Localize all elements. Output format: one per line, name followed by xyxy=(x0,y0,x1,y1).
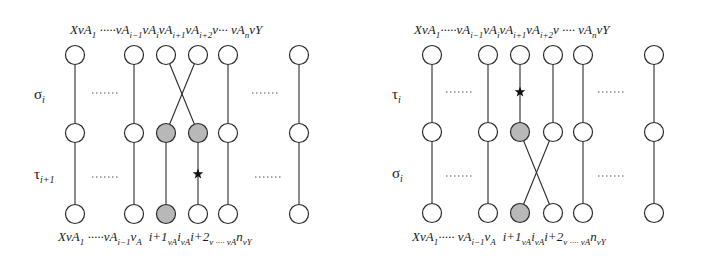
bottom-sequence-label: XvA1 ·····vAi−1vA⃖i+1vAivAi+2v ···· vAnv… xyxy=(57,229,253,247)
subscript: vA xyxy=(522,237,532,247)
label-part: i+2 xyxy=(190,229,209,244)
node xyxy=(66,205,85,224)
subscript: i+1 xyxy=(513,30,526,40)
subscript: v ···· vA xyxy=(209,237,236,247)
subscript: i+2 xyxy=(540,30,554,40)
shaded-node xyxy=(157,205,176,224)
subscript: i−1 xyxy=(471,237,484,247)
shaded-node xyxy=(511,204,530,223)
top-sequence-label: XvA1·····vAi−1vAivAi+1vAi+2v ···· vAnvY xyxy=(413,22,611,40)
node xyxy=(479,46,498,65)
label-part: i+1 xyxy=(149,229,168,244)
subscript: vY xyxy=(243,237,253,247)
subscript: i−1 xyxy=(470,30,483,40)
node xyxy=(189,46,208,65)
shaded-node xyxy=(189,124,208,143)
label-part: ·····vA xyxy=(84,229,117,244)
node xyxy=(423,46,442,65)
label-part: vY xyxy=(249,22,264,37)
node xyxy=(423,204,442,223)
row-label-symbol: σ xyxy=(34,86,42,102)
label-part: v ···· vA xyxy=(553,22,592,37)
node xyxy=(645,123,664,142)
label-part: vA xyxy=(526,22,540,37)
nodes xyxy=(66,46,309,224)
subscript: vY xyxy=(597,237,607,247)
label-part: XvA xyxy=(69,22,92,37)
subscript: i+1 xyxy=(172,30,185,40)
subscript: i+2 xyxy=(199,30,213,40)
left-braid-diagram: σiτi+1XvA1 ·····vAi−1vAivAi+1vAi+2v··· v… xyxy=(34,22,309,247)
node xyxy=(219,205,238,224)
label-part: vA xyxy=(499,22,513,37)
label-part: ····· vA xyxy=(438,229,471,244)
label-part: i+1 xyxy=(503,229,522,244)
node xyxy=(479,204,498,223)
node xyxy=(125,124,144,143)
row-label: τi xyxy=(392,86,401,105)
subscript: A⃖ xyxy=(489,237,503,247)
subscript: vA xyxy=(168,237,178,247)
shaded-node xyxy=(511,123,530,142)
node xyxy=(544,123,563,142)
node xyxy=(290,205,309,224)
node xyxy=(574,204,593,223)
node xyxy=(574,123,593,142)
braid-diagram-canvas: σiτi+1XvA1 ·····vAi−1vAivAi+1vAi+2v··· v… xyxy=(0,0,716,271)
right-braid-diagram: τiσiXvA1·····vAi−1vAivAi+1vAi+2v ···· vA… xyxy=(392,22,664,247)
node xyxy=(544,46,563,65)
subscript: v ···· vA xyxy=(563,237,590,247)
node xyxy=(125,46,144,65)
label-part: vA xyxy=(159,22,173,37)
node xyxy=(423,123,442,142)
label-part: vA xyxy=(142,22,156,37)
node xyxy=(219,124,238,143)
node xyxy=(290,124,309,143)
label-part: vA xyxy=(185,22,199,37)
node xyxy=(645,46,664,65)
shaded-node xyxy=(157,124,176,143)
label-part: v··· vA xyxy=(212,22,245,37)
node xyxy=(645,204,664,223)
node xyxy=(544,204,563,223)
subscript: A⃖ xyxy=(135,237,149,247)
node xyxy=(574,46,593,65)
top-sequence-label: XvA1 ·····vAi−1vAivAi+1vAi+2v··· vAnvY xyxy=(69,22,264,40)
label-part: XvA xyxy=(57,229,80,244)
subscript: vA xyxy=(535,237,545,247)
row-label: τi+1 xyxy=(34,166,55,185)
node xyxy=(511,46,530,65)
row-label-subscript: i+1 xyxy=(40,174,55,185)
row-label-subscript: i xyxy=(42,94,45,105)
node xyxy=(66,46,85,65)
row-label-symbol: σ xyxy=(392,165,400,181)
subscript: i−1 xyxy=(129,30,142,40)
node xyxy=(125,205,144,224)
label-part: vY xyxy=(597,22,612,37)
label-part: XvA xyxy=(413,22,436,37)
subscript: vA xyxy=(181,237,191,247)
bottom-sequence-label: XvA1····· vAi−1vA⃖i+1vAivAi+2v ···· vAnv… xyxy=(411,229,607,247)
label-part: ·····vA xyxy=(96,22,129,37)
node xyxy=(157,46,176,65)
label-part: ·····vA xyxy=(440,22,470,37)
row-label: σi xyxy=(392,165,403,184)
node xyxy=(290,46,309,65)
subscript: i−1 xyxy=(117,237,130,247)
node xyxy=(479,123,498,142)
node xyxy=(189,205,208,224)
edges xyxy=(432,65,654,205)
row-label-subscript: i xyxy=(398,94,401,105)
row-label-subscript: i xyxy=(400,173,403,184)
edges xyxy=(75,64,299,205)
node xyxy=(66,124,85,143)
label-part: i+2 xyxy=(544,229,563,244)
node xyxy=(219,46,238,65)
nodes xyxy=(423,46,664,223)
row-label: σi xyxy=(34,86,45,105)
label-part: XvA xyxy=(411,229,434,244)
label-part: vA xyxy=(483,22,497,37)
